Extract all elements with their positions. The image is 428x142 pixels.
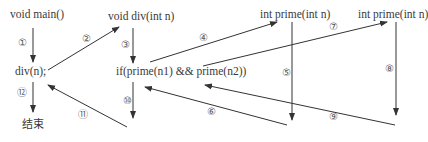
arrow-4 bbox=[150, 22, 277, 62]
step-4: ④ bbox=[199, 33, 208, 43]
step-6: ⑥ bbox=[207, 107, 216, 117]
step-3: ③ bbox=[121, 40, 130, 50]
node-main: void main() bbox=[10, 9, 64, 21]
node-prime-2: int prime(int n) bbox=[358, 9, 428, 21]
node-prime-1: int prime(int n) bbox=[260, 9, 330, 21]
step-2: ② bbox=[82, 34, 91, 44]
step-8: ⑧ bbox=[385, 64, 394, 74]
step-1: ① bbox=[18, 38, 27, 48]
step-11: ⑪ bbox=[78, 110, 88, 120]
arrow-7 bbox=[203, 22, 387, 66]
node-div-call: div(n); bbox=[15, 66, 46, 78]
arrow-6 bbox=[145, 87, 287, 125]
node-end: 结束 bbox=[22, 119, 44, 130]
arrow-9 bbox=[205, 85, 395, 125]
step-5: ⑤ bbox=[282, 68, 291, 78]
node-div-def: void div(int n) bbox=[108, 11, 174, 23]
node-if-stmt: if(prime(n1) && prime(n2)) bbox=[116, 66, 246, 78]
step-12: ⑫ bbox=[17, 88, 27, 98]
arrow-11 bbox=[48, 85, 127, 127]
step-7: ⑦ bbox=[329, 22, 338, 32]
step-9: ⑨ bbox=[329, 112, 338, 122]
step-10: ⑩ bbox=[123, 96, 132, 106]
